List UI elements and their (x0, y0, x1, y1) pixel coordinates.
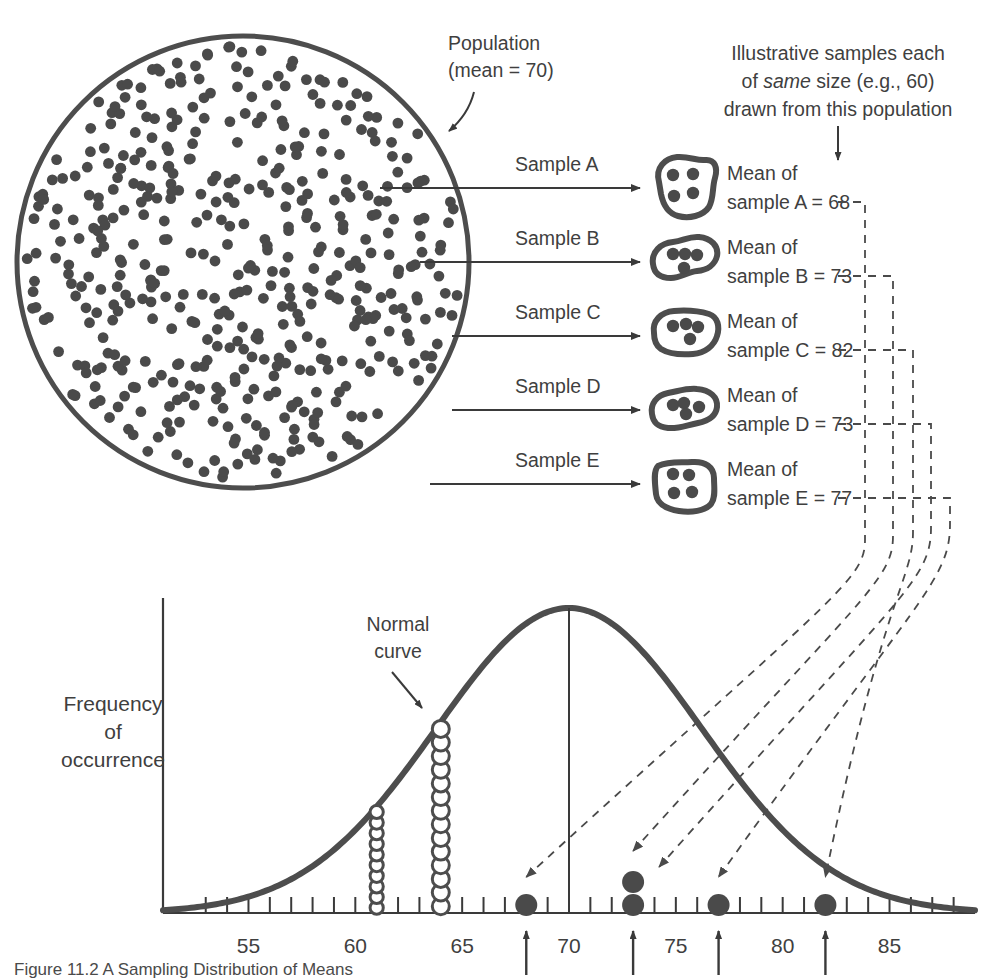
sample-row-e: Sample EMean ofsample E = 77 (430, 449, 852, 512)
population-label-line2: (mean = 70) (448, 59, 554, 81)
x-tick-label: 75 (664, 934, 687, 957)
illustrative-line1: Illustrative samples each (731, 42, 945, 64)
x-tick-label: 80 (771, 934, 794, 957)
figure-caption: Figure 11.2 A Sampling Distribution of M… (14, 960, 353, 979)
y-axis-label-line2: of (104, 720, 122, 743)
x-axis-tick-labels: 55606570758085 (237, 934, 901, 957)
dashed-route-b (633, 276, 893, 851)
distribution-chart: Frequency of occurrence 55606570758085 N… (61, 598, 975, 975)
normal-curve-label-line1: Normal (367, 613, 430, 635)
sample-mean-line1-c: Mean of (727, 310, 798, 332)
sample-mean-dot (515, 894, 537, 916)
sample-mean-dot (622, 871, 644, 893)
sample-row-c: Sample CMean ofsample C = 82 (452, 301, 853, 361)
sample-mean-line2-c: sample C = 82 (727, 339, 853, 361)
normal-curve-callout-arrow (392, 672, 422, 708)
sample-mean-line2-a: sample A = 68 (727, 191, 850, 213)
illustrative-line2-post: size (e.g., 60) (811, 70, 935, 92)
illustrative-line2-pre: of (742, 70, 764, 92)
x-tick-label: 55 (237, 934, 260, 957)
sample-blob-c (654, 311, 719, 355)
sample-mean-line1-e: Mean of (727, 458, 798, 480)
sample-arrow-label-a: Sample A (515, 153, 598, 175)
sampling-distribution-figure: Population (mean = 70) Illustrative samp… (0, 0, 987, 979)
x-tick-label: 85 (878, 934, 901, 957)
figure-canvas: Population (mean = 70) Illustrative samp… (0, 0, 987, 979)
sample-arrow-label-b: Sample B (515, 227, 600, 249)
x-axis-ticks (206, 897, 954, 913)
dashed-route-e (719, 498, 950, 877)
population-callout-arrow (449, 92, 474, 131)
x-tick-label: 60 (344, 934, 367, 957)
sample-mean-line2-d: sample D = 73 (727, 413, 853, 435)
sample-mean-line2-b: sample B = 73 (727, 265, 852, 287)
sample-mean-line1-a: Mean of (727, 162, 798, 184)
sample-arrow-label-e: Sample E (515, 449, 600, 471)
population-circle (17, 36, 469, 488)
sample-mean-dot (814, 894, 836, 916)
illustrative-line3: drawn from this population (724, 98, 953, 120)
sample-mean-dot (622, 894, 644, 916)
sample-blob-d (652, 389, 717, 428)
sample-row-b: Sample BMean ofsample B = 73 (420, 227, 852, 287)
open-circle-stack (370, 805, 383, 914)
sample-arrow-label-d: Sample D (515, 375, 601, 397)
population-label-line1: Population (448, 32, 540, 54)
sample-mean-line2-e: sample E = 77 (727, 487, 852, 509)
x-tick-label: 65 (450, 934, 473, 957)
illustrative-line2: of same size (e.g., 60) (742, 70, 935, 92)
population-callout: Population (mean = 70) (448, 32, 554, 131)
open-circle-stack (432, 720, 449, 914)
illustrative-line2-emphasis: same (763, 70, 811, 92)
sample-blob-a (658, 157, 716, 217)
normal-curve-callout: Normal curve (367, 613, 430, 708)
x-tick-label: 70 (557, 934, 580, 957)
sample-row-d: Sample DMean ofsample D = 73 (452, 375, 853, 435)
sample-arrow-label-c: Sample C (515, 301, 601, 323)
sample-mean-line1-b: Mean of (727, 236, 798, 258)
normal-curve-label-line2: curve (374, 640, 422, 662)
y-axis-label-line1: Frequency (63, 692, 163, 715)
sample-blob-b (653, 237, 718, 278)
sample-mean-dot (708, 894, 730, 916)
illustrative-samples-note: Illustrative samples each of same size (… (724, 42, 953, 160)
open-circle-stacks (370, 720, 449, 914)
sample-blob-e (655, 462, 715, 512)
y-axis-label-line3: occurrence (61, 748, 165, 771)
sample-mean-line1-d: Mean of (727, 384, 798, 406)
